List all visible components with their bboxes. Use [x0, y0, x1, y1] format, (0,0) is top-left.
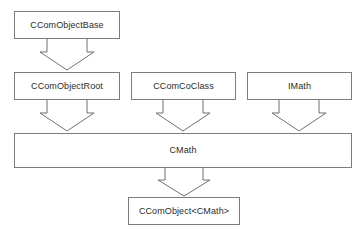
class-node-cmath[interactable]: CMath — [14, 133, 352, 168]
arrow-base-to-root — [40, 39, 94, 70]
arrow-imath-to-cmath — [272, 100, 326, 131]
arrow-root-to-cmath — [40, 100, 94, 131]
class-node-ccomobjectroot[interactable]: CComObjectRoot — [14, 72, 120, 100]
arrow-cmath-to-ccomobject — [158, 168, 210, 196]
class-node-ccomobjectbase[interactable]: CComObjectBase — [14, 11, 120, 39]
class-node-ccomobject-cmath[interactable]: CComObject<CMath> — [128, 197, 240, 225]
class-node-ccomcoclass[interactable]: CComCoClass — [131, 72, 236, 100]
class-node-imath[interactable]: IMath — [247, 72, 352, 100]
class-node-label: CComObjectRoot — [31, 82, 103, 91]
figure-caption-strip — [0, 229, 250, 237]
class-node-label: IMath — [288, 82, 311, 91]
arrow-coclass-to-cmath — [156, 100, 210, 131]
class-diagram: CComObjectBase CComObjectRoot CComCoClas… — [0, 0, 360, 237]
class-node-label: CComCoClass — [153, 82, 214, 91]
class-node-label: CComObject<CMath> — [139, 207, 229, 216]
class-node-label: CMath — [169, 146, 196, 155]
class-node-label: CComObjectBase — [30, 21, 103, 30]
